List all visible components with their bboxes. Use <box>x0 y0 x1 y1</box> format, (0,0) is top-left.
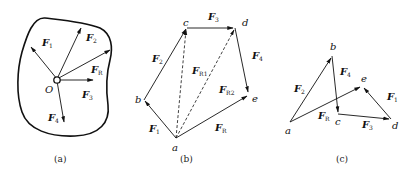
label-f3: F3 <box>81 89 93 101</box>
force-f4-arrow <box>57 81 64 122</box>
label-f4: F4 <box>251 50 263 62</box>
point-e: e <box>252 93 258 104</box>
vector-fr1 <box>176 30 186 138</box>
panel-b: a b c d e F1 F2 F3 F4 FR1 FR2 FR (b) <box>135 11 263 164</box>
label-fr2: FR2 <box>218 84 235 96</box>
label-f2: F2 <box>293 83 305 95</box>
label-f4: F4 <box>339 66 351 78</box>
caption-a: (a) <box>54 154 66 164</box>
panel-c: a b c d e F2 F4 FR F3 F1 (c) <box>285 41 398 164</box>
label-f4: F4 <box>47 112 59 124</box>
label-f1: F1 <box>41 37 53 49</box>
point-d: d <box>392 120 398 131</box>
panel-a: F1 F2 FR F3 F4 O (a) <box>18 18 112 164</box>
force-polygon-figure: F1 F2 FR F3 F4 O (a) a b c d e F1 F2 F3 … <box>0 0 407 180</box>
vector-fr <box>176 96 247 138</box>
point-a: a <box>172 142 178 153</box>
point-d: d <box>242 17 248 28</box>
label-f2: F2 <box>85 32 97 44</box>
label-o: O <box>45 84 53 95</box>
point-b: b <box>135 94 141 105</box>
point-a: a <box>285 125 291 136</box>
force-f1-arrow <box>31 47 57 79</box>
point-b: b <box>330 41 336 52</box>
label-fr1: FR1 <box>191 65 207 77</box>
vector-f4 <box>235 28 248 92</box>
force-f2-arrow <box>57 28 81 79</box>
point-c: c <box>183 17 189 28</box>
label-f2: F2 <box>151 53 163 65</box>
label-fr: FR <box>317 110 330 122</box>
caption-b: (b) <box>180 154 193 164</box>
caption-c: (c) <box>336 154 348 164</box>
label-f1: F1 <box>386 91 398 103</box>
label-f3: F3 <box>361 119 373 131</box>
label-fr: FR <box>214 122 227 134</box>
label-fr: FR <box>90 64 103 76</box>
rigid-body-outline <box>18 18 112 136</box>
point-c: c <box>335 116 341 127</box>
point-e: e <box>361 73 367 84</box>
vector-f2 <box>144 29 186 100</box>
point-o-marker <box>54 77 60 83</box>
vector-f4 <box>332 56 338 112</box>
label-f1: F1 <box>148 123 160 135</box>
label-f3: F3 <box>207 11 219 23</box>
